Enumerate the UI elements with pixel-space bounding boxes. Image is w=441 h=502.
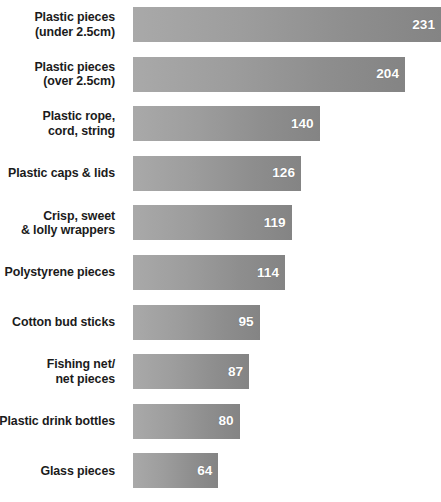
bar-row: Polystyrene pieces114 <box>0 248 441 298</box>
bar-value-label: 80 <box>219 414 234 428</box>
bar[interactable]: 87 <box>133 354 249 389</box>
bar-track: 126 <box>133 156 441 191</box>
bar[interactable]: 114 <box>133 255 285 290</box>
bar-value-label: 204 <box>376 67 399 81</box>
bar-category-label: Fishing net/net pieces <box>0 347 124 397</box>
bar-row: Plastic pieces(over 2.5cm)204 <box>0 50 441 100</box>
bar-category-label: Glass pieces <box>0 446 124 496</box>
bar-track: 95 <box>133 305 441 340</box>
bar[interactable]: 204 <box>133 57 405 92</box>
bar-category-label-line: net pieces <box>55 372 115 387</box>
bar-row: Glass pieces64 <box>0 446 441 496</box>
bar-value-label: 64 <box>197 464 212 478</box>
bar-track: 140 <box>133 106 441 141</box>
bar-category-label-line: (under 2.5cm) <box>35 25 115 40</box>
bar-category-label: Plastic drink bottles <box>0 397 124 447</box>
bar-category-label-line: Plastic caps & lids <box>8 166 115 181</box>
bar-value-label: 87 <box>228 365 243 379</box>
bar-value-label: 114 <box>257 266 279 280</box>
bar-value-label: 119 <box>264 216 286 230</box>
bar-category-label: Cotton bud sticks <box>0 298 124 348</box>
bar-category-label-line: Plastic pieces <box>34 60 115 75</box>
bar-track: 80 <box>133 404 441 439</box>
bar-category-label: Plastic rope,cord, string <box>0 99 124 149</box>
bar-category-label-line: & lolly wrappers <box>21 223 115 238</box>
bar-row: Plastic drink bottles80 <box>0 397 441 447</box>
bar-category-label: Crisp, sweet& lolly wrappers <box>0 198 124 248</box>
bar-row: Plastic rope,cord, string140 <box>0 99 441 149</box>
bar-track: 119 <box>133 205 441 240</box>
bar-category-label-line: Plastic drink bottles <box>0 414 115 429</box>
bar[interactable]: 64 <box>133 453 218 488</box>
bar-category-label-line: Crisp, sweet <box>43 209 115 224</box>
bar-category-label-line: Cotton bud sticks <box>12 315 115 330</box>
bar-value-label: 126 <box>272 166 295 180</box>
bar[interactable]: 126 <box>133 156 301 191</box>
bar-category-label: Plastic pieces(over 2.5cm) <box>0 50 124 100</box>
bar-category-label-line: Plastic rope, <box>43 109 115 124</box>
bar-category-label-line: cord, string <box>48 124 115 139</box>
bar[interactable]: 140 <box>133 106 320 141</box>
bar-category-label-line: Fishing net/ <box>47 357 115 372</box>
bar-track: 64 <box>133 453 441 488</box>
bar-row: Plastic caps & lids126 <box>0 149 441 199</box>
bar-category-label: Plastic pieces(under 2.5cm) <box>0 0 124 50</box>
bar[interactable]: 95 <box>133 305 260 340</box>
bar-category-label: Plastic caps & lids <box>0 149 124 199</box>
bar[interactable]: 119 <box>133 205 292 240</box>
bar-track: 231 <box>133 7 441 42</box>
bar-row: Crisp, sweet& lolly wrappers119 <box>0 198 441 248</box>
bar-track: 87 <box>133 354 441 389</box>
bar-category-label-line: Glass pieces <box>40 464 115 479</box>
bar-row: Fishing net/net pieces87 <box>0 347 441 397</box>
horizontal-bar-chart: Plastic pieces(under 2.5cm)231Plastic pi… <box>0 0 441 502</box>
bar-track: 114 <box>133 255 441 290</box>
bar-value-label: 140 <box>291 117 314 131</box>
bar-rows-container: Plastic pieces(under 2.5cm)231Plastic pi… <box>0 0 441 496</box>
bar-category-label-line: Plastic pieces <box>34 10 115 25</box>
bar[interactable]: 231 <box>133 7 441 42</box>
bar-row: Cotton bud sticks95 <box>0 298 441 348</box>
bar[interactable]: 80 <box>133 404 240 439</box>
bar-category-label-line: (over 2.5cm) <box>43 74 115 89</box>
bar-track: 204 <box>133 57 441 92</box>
bar-value-label: 231 <box>412 18 435 32</box>
bar-category-label: Polystyrene pieces <box>0 248 124 298</box>
bar-category-label-line: Polystyrene pieces <box>5 265 115 280</box>
bar-row: Plastic pieces(under 2.5cm)231 <box>0 0 441 50</box>
bar-value-label: 95 <box>239 315 254 329</box>
